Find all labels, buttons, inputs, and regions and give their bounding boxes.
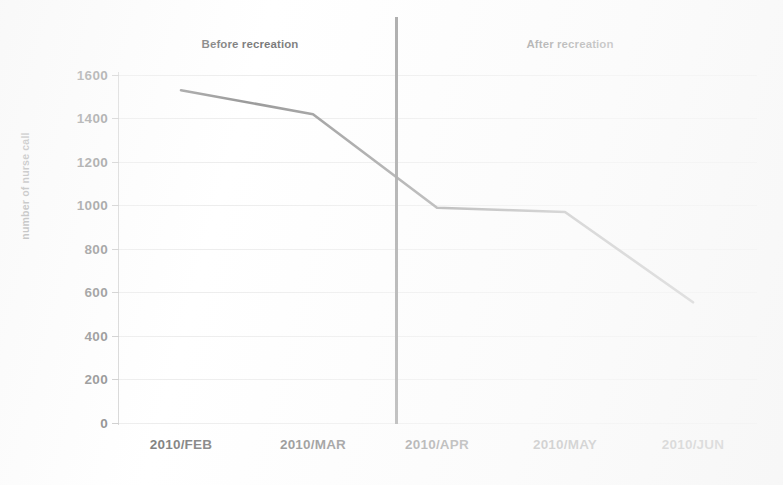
line-chart-figure: 1600 1400 1200 1000 800 600 400 200 0 nu… bbox=[0, 0, 783, 485]
x-tick-label-may: 2010/MAY bbox=[500, 437, 630, 452]
x-tick-label-apr: 2010/APR bbox=[372, 437, 502, 452]
x-tick-label-feb: 2010/FEB bbox=[116, 437, 246, 452]
series-line-nurse-call bbox=[181, 90, 693, 302]
x-tick-label-jun: 2010/JUN bbox=[628, 437, 758, 452]
x-tick-label-mar: 2010/MAR bbox=[248, 437, 378, 452]
data-series-layer bbox=[0, 0, 783, 485]
